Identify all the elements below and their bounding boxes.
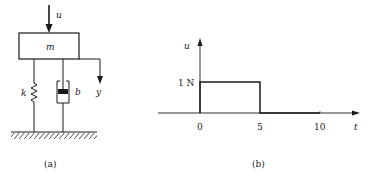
- x-tick-label-10: 10: [314, 122, 326, 132]
- displacement-label: y: [95, 87, 102, 97]
- pulse-line: [200, 82, 320, 113]
- x-tick-label-0: 0: [197, 122, 203, 132]
- force-arrow-icon: [46, 5, 53, 33]
- y-axis-label: u: [184, 41, 190, 51]
- input-pulse-plot: u 1 N 0 5 10 t: [158, 38, 360, 132]
- x-axis-arrow-icon: [352, 111, 360, 116]
- displacement-arrow-icon: [79, 59, 103, 84]
- damper-icon: [57, 59, 69, 132]
- mass-label: m: [46, 42, 55, 52]
- ground-icon: [11, 132, 97, 139]
- spring-label: k: [21, 88, 26, 98]
- x-axis: [158, 111, 360, 116]
- mass-spring-damper-system: u m y k b: [11, 5, 103, 139]
- spring-icon: [31, 59, 37, 132]
- force-label: u: [56, 10, 62, 20]
- caption-a: (a): [44, 159, 56, 169]
- level-label: 1 N: [178, 78, 195, 88]
- y-axis-arrow-icon: [198, 38, 203, 46]
- diagram-canvas: u m y k b (a): [0, 0, 372, 179]
- x-axis-label: t: [354, 122, 358, 132]
- x-tick-label-5: 5: [257, 122, 263, 132]
- caption-b: (b): [252, 159, 265, 169]
- damper-label: b: [75, 87, 81, 97]
